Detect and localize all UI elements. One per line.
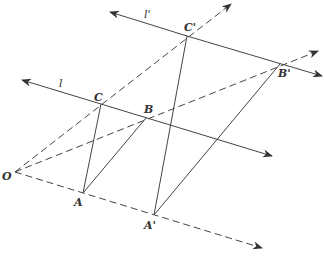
- segment-a-prime-c-prime: [154, 36, 187, 215]
- label-a: A: [73, 196, 83, 209]
- segment-a-b: [83, 118, 146, 193]
- diagram-canvas: O A A' C B C' B' l l': [0, 0, 324, 257]
- label-line-l: l: [59, 77, 63, 90]
- line-l-right: [101, 104, 272, 156]
- label-b-prime: B': [277, 67, 291, 80]
- label-line-l-prime: l': [144, 8, 151, 21]
- label-a-prime: A': [143, 219, 156, 232]
- label-c-prime: C': [184, 21, 196, 34]
- ray-o-b-prime: [15, 51, 318, 172]
- label-c: C: [94, 91, 103, 104]
- projection-diagram: O A A' C B C' B' l l': [0, 0, 324, 257]
- label-b: B: [143, 103, 153, 116]
- ray-o-a-prime: [15, 172, 262, 248]
- label-o: O: [2, 170, 12, 183]
- segment-a-prime-b-prime: [154, 64, 280, 215]
- line-l-prime-right: [187, 36, 322, 76]
